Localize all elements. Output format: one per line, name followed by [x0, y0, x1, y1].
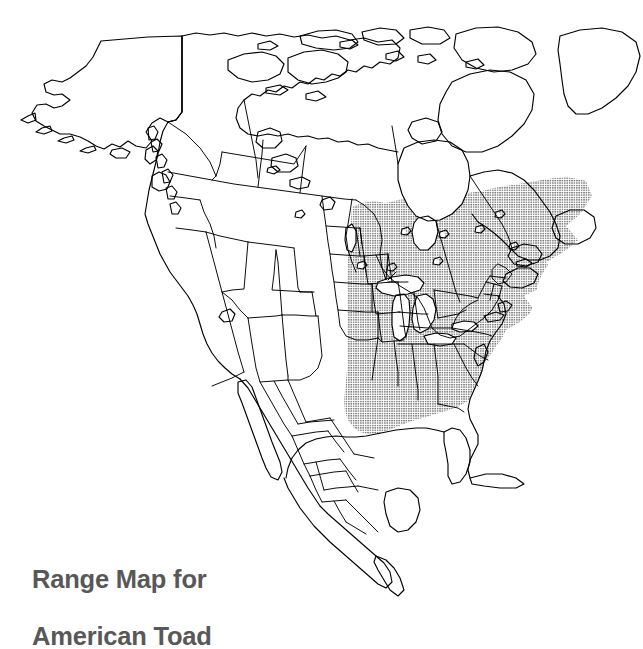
wy-east-border: [294, 248, 300, 292]
arctic-mainland-coast: [182, 33, 400, 152]
alaska-yukon-border: [168, 36, 182, 122]
great-slave-lake: [271, 154, 298, 172]
banks-island: [228, 52, 284, 82]
ut-co-border: [276, 250, 282, 315]
canada-pacific-coast: [145, 36, 240, 379]
map-caption: Range Map for American Toad: [32, 536, 332, 649]
caption-line-1: Range Map for: [32, 565, 332, 594]
or-ca-border: [176, 228, 206, 232]
nunavut-quebec-border: [392, 126, 398, 164]
alberta-sask-border: [258, 140, 263, 187]
wy-co-border: [272, 250, 312, 292]
ut-az-border: [248, 315, 282, 318]
florida-peninsula: [444, 428, 470, 484]
nm-az-border: [282, 315, 288, 376]
cuba-partial: [470, 474, 524, 488]
co-nm-border: [282, 315, 318, 316]
co-east-border: [312, 292, 316, 316]
kodiak-island: [110, 148, 130, 158]
az-south-border: [248, 318, 288, 382]
central-america-tip: [374, 556, 404, 596]
gulf-coast: [286, 428, 444, 478]
ca-east-border: [206, 232, 244, 372]
alaska-outline: [32, 36, 182, 149]
coastline-outlines: [21, 27, 640, 596]
lake-athabasca: [290, 177, 310, 189]
baffin-island: [438, 70, 534, 152]
id-south-border: [206, 232, 248, 242]
nm-tx-border: [288, 316, 322, 380]
yukon-nwt-border: [168, 122, 216, 176]
yucatan-peninsula: [384, 488, 420, 532]
bc-coastal-fjords: [148, 126, 181, 214]
greenland-edge: [558, 28, 640, 114]
bc-alberta-border: [212, 152, 222, 180]
nwt-mainland-south: [222, 146, 306, 164]
nv-ut-border: [222, 242, 248, 292]
mt-wy-border: [248, 242, 294, 248]
arctic-small-islands: [258, 40, 484, 101]
great-bear-lake: [256, 128, 282, 148]
caption-line-2: American Toad: [32, 622, 332, 649]
baja-california: [238, 380, 282, 480]
us-canada-border: [168, 172, 356, 200]
nwt-nunavut-border: [244, 100, 258, 178]
